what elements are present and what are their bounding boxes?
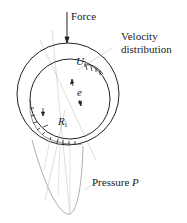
pressure-label: Pressure P [92,176,139,188]
velocity-distribution-arrows [84,65,103,75]
bearing-outer-circle [17,43,119,145]
ri-label-sub: i [65,120,67,129]
pressure-label-text: Pressure [92,176,132,188]
ui-label-sub: i [84,60,86,69]
pressure-label-symbol: P [132,176,139,188]
ui-label-main: U [76,55,84,67]
force-label: Force [71,10,96,22]
ri-label-main: R [58,115,65,127]
force-arrow [65,12,69,43]
journal-inner-circle [30,59,110,139]
velocity-label-line2: distribution [121,43,172,55]
ui-label: Ui [76,55,86,71]
velocity-label-line1: Velocity [121,30,158,42]
eccentricity-label: e [77,86,82,98]
ri-label: Ri [58,115,67,131]
pressure-curve [32,140,83,214]
journal-bearing-diagram [0,0,187,223]
rotation-arrow [42,108,45,116]
